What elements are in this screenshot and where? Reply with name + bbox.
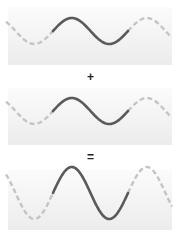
resultant-wave-graphic [0, 0, 181, 238]
resultant-wave-solid [53, 167, 128, 219]
resultant-wave-dashed-right [128, 167, 172, 206]
resultant-wave-dashed-left [6, 174, 53, 219]
